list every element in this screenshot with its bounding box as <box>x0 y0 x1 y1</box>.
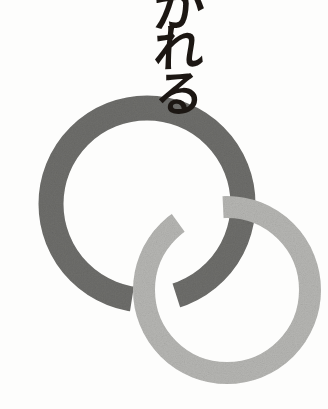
interlocking-rings-illustration <box>0 0 328 409</box>
artwork-canvas: か れ る <box>0 0 328 409</box>
